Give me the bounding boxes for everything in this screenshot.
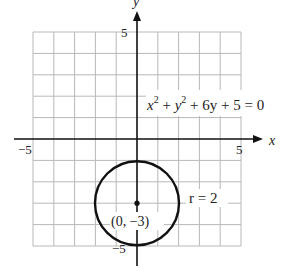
- x-axis-label: x: [268, 133, 276, 148]
- x-tick-5: 5: [236, 142, 243, 157]
- center-point: [134, 201, 139, 206]
- y-tick-neg5: −5: [112, 241, 126, 256]
- y-tick-5: 5: [121, 25, 128, 40]
- radius-label: r = 2: [189, 190, 217, 206]
- equation-label: x2 + y2 + 6y + 5 = 0: [146, 94, 264, 113]
- x-axis: [14, 135, 263, 143]
- y-axis-label: y: [131, 0, 140, 9]
- circle-graph: x y −5 5 5 −5 x2 + y2 + 6y + 5 = 0 r = 2…: [0, 0, 299, 271]
- x-tick-neg5: −5: [18, 142, 32, 157]
- center-label: (0, −3): [111, 214, 150, 230]
- y-axis-arrow-icon: [133, 11, 141, 21]
- x-axis-arrow-icon: [253, 135, 263, 143]
